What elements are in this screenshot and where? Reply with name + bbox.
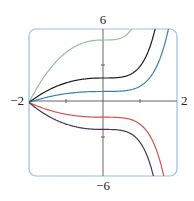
solution-curves [29,5,173,201]
x-min-label: −2 [10,93,24,108]
x-max-label: 2 [181,93,188,108]
curve-green [29,5,142,103]
solution-curves-chart: 6 −6 −2 2 [0,0,194,201]
curve-black [29,5,161,103]
y-min-label: −6 [96,178,110,193]
y-max-label: 6 [100,12,107,27]
